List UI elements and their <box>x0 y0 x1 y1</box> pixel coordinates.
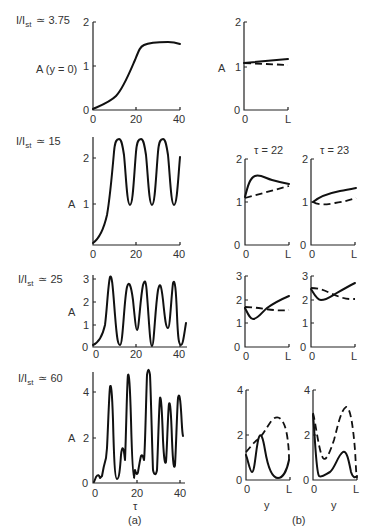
tick-label: 40 <box>173 248 185 260</box>
tick-label: 0 <box>309 248 315 260</box>
row3-bl-ticks <box>245 276 289 347</box>
y-axis-label-left: y <box>264 499 270 511</box>
tick-label: 0 <box>243 350 249 362</box>
tick-label: 0 <box>82 477 88 489</box>
row-4: I/Ist≃ 60 A 4 2 0 0 20 40 τ (a) 4 2 0 0 … <box>18 370 359 526</box>
tick-label: 2 <box>83 296 89 308</box>
tick-label: 3 <box>302 270 308 282</box>
tick-label: 2 <box>236 294 242 306</box>
panel-b-label: (b) <box>292 514 305 526</box>
tick-label: L <box>285 113 291 125</box>
y-axis-label-right: y <box>331 499 337 511</box>
tick-label: 1 <box>83 198 89 210</box>
tick-label: L <box>285 248 291 260</box>
row1-b-ylabel: A <box>218 62 226 74</box>
tau-22-label: τ = 22 <box>254 144 283 156</box>
tick-label: L <box>353 483 359 495</box>
tick-label: 0 <box>236 474 242 486</box>
row2-bl-dashed <box>245 186 289 198</box>
row1-b-axes <box>244 22 288 110</box>
tick-label: 1 <box>83 319 89 331</box>
row4-bl-dashed <box>246 417 289 460</box>
tick-label: 0 <box>303 474 309 486</box>
tau-23-label: τ = 23 <box>320 144 349 156</box>
tick-label: 2 <box>83 152 89 164</box>
row2-bl-solid <box>245 175 289 197</box>
tick-label: L <box>351 350 357 362</box>
tick-label: 2 <box>237 429 243 441</box>
panel-a-label: (a) <box>128 514 141 526</box>
row4-a-ylabel: A <box>68 432 76 444</box>
tick-label: 0 <box>93 348 99 360</box>
tick-label: 2 <box>83 432 89 444</box>
tick-label: 0 <box>234 104 240 116</box>
row2-bl-ticks <box>245 159 289 245</box>
tick-label: 2 <box>302 153 308 165</box>
tick-label: 20 <box>130 348 142 360</box>
tick-label: 20 <box>131 487 143 499</box>
tick-label: 40 <box>173 348 185 360</box>
row2-br-ticks <box>311 159 355 245</box>
tick-label: 2 <box>236 153 242 165</box>
tick-label: 1 <box>236 317 242 329</box>
row1-a-curve <box>93 42 180 109</box>
tick-label: 0 <box>300 341 306 353</box>
tick-label: 2 <box>304 429 310 441</box>
row2-ratio-label: I/Ist≃ 15 <box>16 135 61 150</box>
tick-label: 20 <box>130 113 142 125</box>
tick-label: 2 <box>302 294 308 306</box>
row1-a-axes <box>93 22 180 110</box>
row4-a-curve <box>94 370 183 482</box>
tick-label: 1 <box>83 60 89 72</box>
row2-a-ticks <box>93 158 180 245</box>
b-xtick-labels: 0 0 L 0 0 L 0 0 L 0 0 L <box>234 239 357 362</box>
row-1: I/Ist≃ 3.75 A (y = 0) 2 1 0 0 20 40 A 2 … <box>16 14 291 125</box>
row4-ratio-label: I/Ist≃ 60 <box>18 372 63 387</box>
row1-ratio-label: I/Ist≃ 3.75 <box>16 14 70 29</box>
tick-label: 0 <box>244 483 250 495</box>
tick-label: 4 <box>237 384 243 396</box>
tick-label: 40 <box>174 487 186 499</box>
row2-a-ylabel: A <box>68 198 76 210</box>
row3-ratio-label: I/Ist≃ 25 <box>18 273 63 288</box>
tick-label: 20 <box>130 248 142 260</box>
row2-bl-axes <box>245 159 289 245</box>
tick-label: 0 <box>309 350 315 362</box>
tick-label: 1 <box>302 196 308 208</box>
tick-label: 4 <box>304 384 310 396</box>
tick-label: 0 <box>234 239 240 251</box>
figure-canvas: I/Ist≃ 3.75 A (y = 0) 2 1 0 0 20 40 A 2 … <box>0 0 373 531</box>
row2-br-dashed <box>313 198 356 204</box>
row1-a-ylabel: A (y = 0) <box>36 63 77 75</box>
tick-label: 1 <box>302 317 308 329</box>
row1-b-ticks <box>244 22 288 110</box>
row3-bl-axes <box>245 276 289 347</box>
row2-a-curve <box>93 139 180 243</box>
tick-label: 3 <box>83 273 89 285</box>
tick-label: 0 <box>300 239 306 251</box>
tick-label: 0 <box>234 341 240 353</box>
tick-label: 1 <box>236 196 242 208</box>
tick-label: 0 <box>90 248 96 260</box>
tick-label: 2 <box>235 16 241 28</box>
tick-label: 0 <box>243 248 249 260</box>
tick-label: L <box>285 350 291 362</box>
row2-br-axes <box>311 159 355 245</box>
tick-label: 0 <box>90 113 96 125</box>
tick-label: 0 <box>83 104 89 116</box>
tick-label: L <box>351 248 357 260</box>
row3-a-ylabel: A <box>68 306 76 318</box>
tick-label: 3 <box>236 270 242 282</box>
row3-a-curve <box>93 276 186 346</box>
tick-label: 2 <box>83 16 89 28</box>
tick-label: 0 <box>242 113 248 125</box>
tick-label: 40 <box>173 113 185 125</box>
tick-label: 0 <box>311 483 317 495</box>
tick-label: L <box>286 483 292 495</box>
row1-a-ticks <box>93 22 180 110</box>
tick-label: 4 <box>83 386 89 398</box>
row3-br-solid <box>311 283 355 300</box>
tick-label: 1 <box>235 61 241 73</box>
row1-b-dashed <box>244 63 288 65</box>
row4-bl-solid <box>246 435 289 478</box>
